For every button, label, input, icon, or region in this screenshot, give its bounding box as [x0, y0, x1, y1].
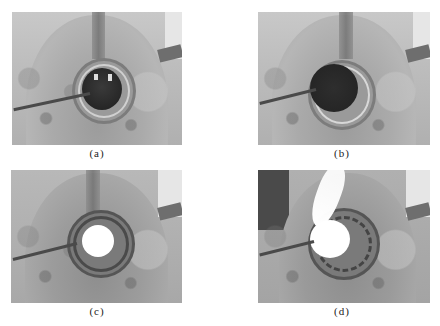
panel-c-label: (c): [77, 305, 117, 317]
glowing-center: [82, 225, 114, 257]
panel-a-photo: [12, 12, 182, 145]
photo-image: [258, 12, 430, 145]
panel-a-label: (a): [77, 147, 117, 159]
photo-image: [12, 12, 182, 145]
panel-c-photo: [11, 170, 182, 303]
photo-image: [258, 170, 430, 303]
panel-b-label: (b): [322, 147, 362, 159]
dark-opening: [82, 68, 122, 110]
photo-image: [11, 170, 182, 303]
dark-opening: [310, 64, 358, 112]
panel-b-photo: [258, 12, 430, 145]
panel-d-photo: [258, 170, 430, 303]
panel-d-label: (d): [322, 305, 362, 317]
